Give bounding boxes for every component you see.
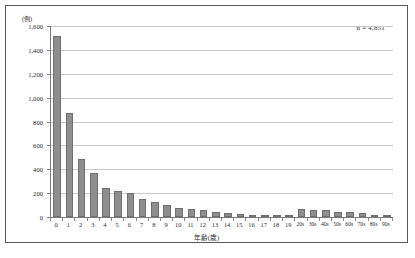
x-tick-label: 50s: [333, 221, 341, 227]
x-tick-mark: [111, 218, 112, 221]
bar: [285, 215, 293, 217]
x-tick-mark: [307, 218, 308, 221]
x-tick-mark: [270, 218, 271, 221]
x-tick-label: 5: [116, 221, 119, 228]
x-tick-label: 6: [128, 221, 131, 228]
x-tick-label: 8: [152, 221, 155, 228]
bar: [224, 213, 232, 217]
x-axis-ticks: 01234567891011121314151617181920s30s40s5…: [50, 218, 393, 232]
x-tick-mark: [380, 218, 381, 221]
bar: [310, 210, 318, 217]
x-tick-label: 17: [261, 221, 267, 228]
y-tick-label: 200: [33, 190, 43, 197]
bar: [249, 215, 257, 217]
bar: [346, 212, 354, 217]
x-tick-label: 19: [285, 221, 291, 228]
x-tick-label: 14: [224, 221, 230, 228]
x-tick-mark: [172, 218, 173, 221]
bar: [237, 214, 245, 217]
bar: [383, 215, 391, 217]
x-tick-mark: [319, 218, 320, 221]
x-tick-mark: [74, 218, 75, 221]
x-tick-mark: [343, 218, 344, 221]
y-tick-label: 800: [33, 118, 43, 125]
bar: [151, 202, 159, 217]
x-tick-mark: [50, 218, 51, 221]
bar: [175, 208, 183, 217]
bar: [163, 205, 171, 217]
bar: [359, 213, 367, 217]
x-tick-label: 60s: [345, 221, 353, 227]
x-tick-mark: [99, 218, 100, 221]
bar: [102, 188, 110, 217]
x-tick-label: 9: [164, 221, 167, 228]
y-tick-label: 1,600: [28, 23, 43, 30]
bar: [188, 209, 196, 217]
x-tick-label: 4: [103, 221, 106, 228]
x-tick-mark: [87, 218, 88, 221]
bar: [212, 212, 220, 217]
bar-series: [51, 26, 393, 217]
x-tick-label: 80s: [370, 221, 378, 227]
x-tick-label: 1: [67, 221, 70, 228]
bar: [66, 113, 74, 217]
y-tick-label: 1,200: [28, 70, 43, 77]
x-tick-mark: [331, 218, 332, 221]
bar: [298, 209, 306, 217]
chart-figure: (例) n = 4,851 02004006008001,0001,2001,4…: [5, 5, 408, 243]
bar: [334, 212, 342, 217]
x-tick-mark: [221, 218, 222, 221]
x-tick-mark: [184, 218, 185, 221]
x-axis-title: 年齢(歳): [6, 232, 407, 242]
x-tick-mark: [392, 218, 393, 221]
plot-area: [50, 26, 393, 218]
bar: [273, 215, 281, 217]
x-tick-mark: [62, 218, 63, 221]
x-tick-label: 2: [79, 221, 82, 228]
bar: [114, 191, 122, 217]
x-tick-mark: [294, 218, 295, 221]
x-tick-mark: [160, 218, 161, 221]
y-tick-label: 1,400: [28, 46, 43, 53]
x-tick-mark: [233, 218, 234, 221]
bar: [322, 210, 330, 217]
x-tick-label: 10: [175, 221, 181, 228]
x-tick-mark: [258, 218, 259, 221]
y-tick-label: 1,000: [28, 94, 43, 101]
y-axis-ticks: 02004006008001,0001,2001,4001,600: [6, 26, 50, 218]
bar: [200, 210, 208, 217]
bar: [127, 193, 135, 217]
y-tick-label: 0: [40, 214, 43, 221]
x-tick-mark: [209, 218, 210, 221]
x-tick-label: 16: [248, 221, 254, 228]
bar: [371, 215, 379, 217]
x-tick-mark: [136, 218, 137, 221]
x-tick-mark: [148, 218, 149, 221]
x-tick-label: 18: [273, 221, 279, 228]
x-tick-label: 15: [236, 221, 242, 228]
x-tick-label: 13: [212, 221, 218, 228]
bar: [261, 215, 269, 217]
x-tick-label: 7: [140, 221, 143, 228]
x-tick-label: 40s: [321, 221, 329, 227]
x-tick-label: 11: [187, 221, 193, 228]
x-tick-label: 30s: [309, 221, 317, 227]
bar: [90, 173, 98, 217]
x-tick-mark: [197, 218, 198, 221]
x-tick-mark: [282, 218, 283, 221]
bar: [53, 36, 61, 217]
x-tick-mark: [355, 218, 356, 221]
x-tick-mark: [368, 218, 369, 221]
x-tick-label: 12: [199, 221, 205, 228]
y-tick-label: 600: [33, 142, 43, 149]
x-tick-mark: [123, 218, 124, 221]
x-tick-mark: [245, 218, 246, 221]
x-tick-label: 0: [54, 221, 57, 228]
x-tick-label: 20s: [297, 221, 305, 227]
x-tick-label: 70s: [358, 221, 366, 227]
bar: [78, 159, 86, 217]
x-tick-label: 3: [91, 221, 94, 228]
y-tick-label: 400: [33, 166, 43, 173]
bar: [139, 199, 147, 218]
x-tick-label: 90s: [382, 221, 390, 227]
